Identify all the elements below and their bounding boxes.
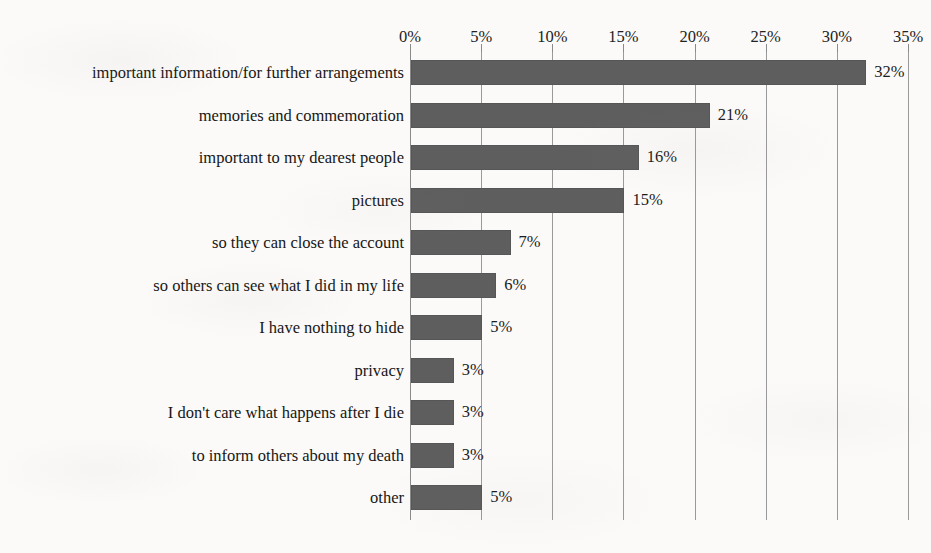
bar-row: 6% [410,265,931,308]
category-label: privacy [0,350,404,393]
tick-mark-20pct [695,44,696,52]
tick-mark-35pct [908,44,909,52]
bar-row: 3% [410,350,931,393]
bar-value-label: 5% [490,313,512,340]
category-label: so they can close the account [0,222,404,265]
bar-row: 3% [410,392,931,435]
bar-row: 5% [410,477,931,520]
bar-value-label: 3% [462,441,484,468]
bar-value-label: 5% [490,483,512,510]
bar [411,443,454,468]
category-label: I have nothing to hide [0,307,404,350]
x-axis-tick-labels: 0%5%10%15%20%25%30%35% [0,26,931,48]
bar-row: 3% [410,435,931,478]
bar-value-label: 21% [718,101,748,128]
bar [411,400,454,425]
bar-row: 5% [410,307,931,350]
bar-value-label: 3% [462,398,484,425]
bar [411,145,639,170]
category-label: pictures [0,180,404,223]
bar-value-label: 6% [504,271,526,298]
bar-value-label: 32% [874,58,904,85]
tick-mark-5pct [481,44,482,52]
tick-mark-10pct [552,44,553,52]
bar [411,230,511,255]
bar [411,60,866,85]
tick-mark-25pct [766,44,767,52]
tick-mark-30pct [837,44,838,52]
bar-value-label: 7% [519,228,541,255]
category-label: to inform others about my death [0,435,404,478]
tick-mark-15pct [623,44,624,52]
category-axis-labels: important information/for further arrang… [0,52,404,520]
category-label: I don't care what happens after I die [0,392,404,435]
bar-row: 7% [410,222,931,265]
horizontal-bar-chart: 0%5%10%15%20%25%30%35% important informa… [0,0,931,553]
bar [411,358,454,383]
bar-value-label: 16% [647,143,677,170]
category-label: memories and commemoration [0,95,404,138]
bars-layer: 32%21%16%15%7%6%5%3%3%3%5% [410,52,931,520]
bar [411,485,482,510]
bar [411,188,624,213]
bar-row: 16% [410,137,931,180]
bar [411,103,710,128]
category-label: so others can see what I did in my life [0,265,404,308]
bar-value-label: 15% [632,186,662,213]
bar [411,273,496,298]
tick-mark-0pct [410,44,411,52]
category-label: other [0,477,404,520]
bar-value-label: 3% [462,356,484,383]
category-label: important information/for further arrang… [0,52,404,95]
bar-row: 15% [410,180,931,223]
bar-row: 32% [410,52,931,95]
bar [411,315,482,340]
category-label: important to my dearest people [0,137,404,180]
bar-row: 21% [410,95,931,138]
